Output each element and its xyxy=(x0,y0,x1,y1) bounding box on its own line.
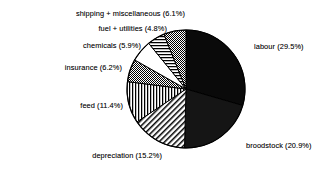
slice-label-labour: labour (29.5%) xyxy=(254,42,330,51)
slice-label-insurance: insurance (6.2%) xyxy=(12,63,122,72)
slice-label-broodstock: broodstock (20.9%) xyxy=(246,141,330,150)
slice-label-fuel-utilities: fuel + utilities (4.8%) xyxy=(41,24,167,33)
slice-label-shipping-miscellaneous: shipping + miscellaneous (6.1%) xyxy=(33,9,185,18)
slice-label-feed: feed (11.4%) xyxy=(33,101,123,110)
slice-label-depreciation: depreciation (15.2%) xyxy=(38,151,162,160)
pie-chart: shipping + miscellaneous (6.1%) fuel + u… xyxy=(0,0,330,171)
slice-label-chemicals: chemicals (5.9%) xyxy=(33,41,141,50)
